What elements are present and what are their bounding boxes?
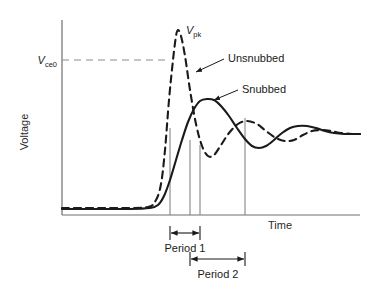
curve-unsnubbed	[62, 30, 360, 208]
snubbed-leader-line	[214, 90, 238, 100]
period-2-label: Period 2	[198, 268, 239, 280]
vpk-subscript: pk	[193, 30, 201, 39]
unsnubbed-leader-line	[196, 59, 224, 72]
x-axis-title: Time	[268, 219, 292, 231]
period-1-label: Period 1	[165, 242, 206, 254]
vce0-subscript: ce0	[45, 60, 57, 69]
period-1-dimension: Period 1	[165, 226, 206, 254]
chart-figure: Voltage Time Vce0 Vpk Unsnubbed Snubbed …	[0, 0, 380, 291]
curve-snubbed	[62, 99, 360, 209]
vpk-label: Vpk	[186, 24, 202, 39]
unsnubbed-label: Unsnubbed	[228, 52, 284, 64]
snubbed-label: Snubbed	[242, 83, 286, 95]
marker-lines	[170, 118, 245, 215]
y-axis-title: Voltage	[18, 114, 30, 151]
vce0-label: Vce0	[38, 54, 57, 69]
period-2-dimension: Period 2	[190, 252, 245, 280]
